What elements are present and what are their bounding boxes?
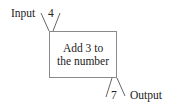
output-value: 7 [111,89,117,101]
process-box: Add 3 to the number [49,31,117,78]
input-funnel-right [53,13,60,31]
output-funnel-right [117,78,125,96]
process-line-2: the number [57,55,109,68]
input-value: 4 [48,7,54,19]
output-label: Output [130,89,162,101]
input-label: Input [11,7,35,19]
process-text: Add 3 to the number [57,42,109,68]
process-line-1: Add 3 to [57,42,109,55]
